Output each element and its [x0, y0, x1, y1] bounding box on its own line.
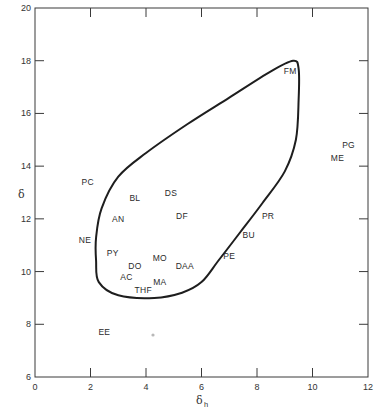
point-label-ma: MA [153, 277, 166, 287]
point-label-pg: PG [342, 140, 355, 150]
point-label-fm: FM [284, 66, 297, 76]
plot-frame [35, 8, 368, 377]
y-tick-label: 14 [21, 161, 31, 171]
point-label-pr: PR [262, 211, 274, 221]
y-tick-label: 10 [21, 267, 31, 277]
boundary-curve [96, 61, 300, 298]
y-tick-label: 12 [21, 214, 31, 224]
axis-ticks: 02468101268101214161820 [21, 3, 373, 392]
x-axis-title-subscript: h [204, 400, 208, 409]
x-tick-label: 4 [143, 382, 148, 392]
point-label-daa: DAA [176, 261, 194, 271]
point-label-py: PY [107, 248, 119, 258]
x-tick-label: 0 [32, 382, 37, 392]
point-label-me: ME [331, 153, 344, 163]
stray-dot [151, 333, 154, 336]
x-tick-label: 2 [88, 382, 93, 392]
point-label-pe: PE [223, 251, 235, 261]
point-label-bl: BL [129, 193, 140, 203]
point-label-ds: DS [165, 188, 177, 198]
x-tick-label: 12 [363, 382, 373, 392]
point-label-ne: NE [79, 235, 91, 245]
y-tick-label: 6 [26, 372, 31, 382]
y-tick-label: 20 [21, 3, 31, 13]
y-tick-label: 18 [21, 56, 31, 66]
point-label-thf: THF [135, 285, 152, 295]
point-label-bu: BU [242, 230, 254, 240]
x-tick-label: 8 [254, 382, 259, 392]
plot-border [35, 8, 368, 377]
x-tick-label: 10 [307, 382, 317, 392]
point-label-ac: AC [120, 272, 132, 282]
solubility-boundary-path [96, 61, 300, 298]
point-label-mo: MO [153, 253, 167, 263]
x-axis-title: δ [196, 394, 203, 407]
point-label-df: DF [176, 211, 188, 221]
point-label-an: AN [112, 214, 124, 224]
scatter-chart: 02468101268101214161820 FMPGMEPCBLDSANDF… [0, 0, 378, 412]
y-tick-label: 8 [26, 319, 31, 329]
point-label-pc: PC [82, 177, 94, 187]
point-label-ee: EE [98, 327, 110, 337]
y-axis-title: δ [18, 188, 25, 201]
x-tick-label: 6 [199, 382, 204, 392]
y-tick-label: 16 [21, 108, 31, 118]
point-label-do: DO [128, 261, 141, 271]
